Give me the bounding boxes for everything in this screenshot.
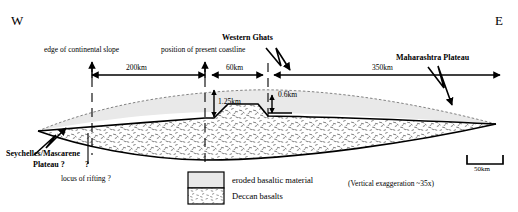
thickness-1-25km: 1.25km [218, 98, 241, 106]
western-ghats-leader [266, 48, 290, 70]
scale-bar-label: 50km [474, 166, 490, 173]
dimension-60km: 60km [226, 64, 243, 72]
compass-label-east: E [495, 14, 503, 27]
label-locus-of-rifting: locus of rifting ? [61, 175, 111, 183]
compass-label-west: W [11, 14, 23, 27]
label-seychelles-plateau: Plateau ? [33, 161, 65, 169]
legend-label-eroded-basaltic-material: eroded basaltic material [232, 176, 313, 185]
label-question-mark: ? [85, 161, 89, 169]
label-western-ghats: Western Ghats [222, 34, 273, 42]
thickness-0-6km: 0.6km [278, 91, 297, 99]
dimension-200km: 200km [126, 64, 147, 72]
label-seychelles-mascarene: Seychelles/Mascarene [6, 150, 80, 158]
legend-swatches [188, 172, 224, 204]
label-edge-of-continental-slope: edge of continental slope [44, 46, 119, 54]
scale-bar [467, 155, 503, 164]
maharashtra-plateau-leader [428, 66, 452, 105]
vertical-exaggeration-note: (Vertical exaggeration ~35x) [348, 180, 434, 188]
label-maharashtra-plateau: Maharashtra Plateau [396, 54, 469, 62]
legend-label-deccan-basalts: Deccan basalts [232, 192, 283, 201]
dimension-350km: 350km [372, 64, 393, 72]
label-position-of-present-coastline: position of present coastline [161, 46, 245, 54]
cross-section-figure: W E edge of continental slope position o… [0, 0, 518, 212]
